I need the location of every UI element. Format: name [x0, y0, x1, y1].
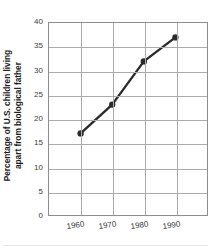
y-axis-tick-label: 30 — [34, 67, 43, 75]
y-axis-title: Percentage of U.S. children living apart… — [0, 0, 26, 232]
gridline-horizontal — [49, 72, 207, 73]
y-axis-tick-label: 10 — [34, 164, 43, 172]
y-axis-tick-label: 20 — [34, 115, 43, 123]
gridline-vertical — [113, 23, 114, 215]
x-axis-tick-label: 1960 — [66, 220, 85, 231]
y-axis-tick-label: 15 — [34, 139, 43, 147]
gridline-vertical — [177, 23, 178, 215]
x-axis-tick-labels: 1960197019801990 — [48, 216, 208, 246]
y-axis-tick-label: 0 — [39, 212, 43, 220]
y-axis-tick-label: 40 — [34, 18, 43, 26]
y-axis-tick-label: 5 — [39, 188, 43, 196]
gridline-horizontal — [49, 120, 207, 121]
x-axis-tick-label: 1970 — [98, 220, 117, 231]
y-axis-title-line-1: Percentage of U.S. children living — [2, 50, 13, 181]
gridline-horizontal — [49, 193, 207, 194]
line-series — [49, 23, 207, 215]
plot-area — [48, 22, 208, 216]
gridline-vertical — [145, 23, 146, 215]
figure-bottom-rule — [3, 245, 208, 246]
series-line — [81, 37, 176, 133]
gridline-horizontal — [49, 96, 207, 97]
y-axis-title-line-2: apart from biological father — [13, 50, 24, 181]
chart-figure: Percentage of U.S. children living apart… — [0, 0, 217, 252]
y-axis-tick-label: 35 — [34, 42, 43, 50]
x-axis-tick-label: 1980 — [130, 220, 149, 231]
gridline-vertical — [81, 23, 82, 215]
y-axis-tick-label: 25 — [34, 91, 43, 99]
gridline-horizontal — [49, 169, 207, 170]
data-point-marker — [141, 58, 147, 64]
x-axis-tick-label: 1990 — [162, 220, 181, 231]
y-axis-tick-labels: 0510152025303540 — [26, 0, 46, 252]
gridline-horizontal — [49, 47, 207, 48]
gridline-horizontal — [49, 144, 207, 145]
